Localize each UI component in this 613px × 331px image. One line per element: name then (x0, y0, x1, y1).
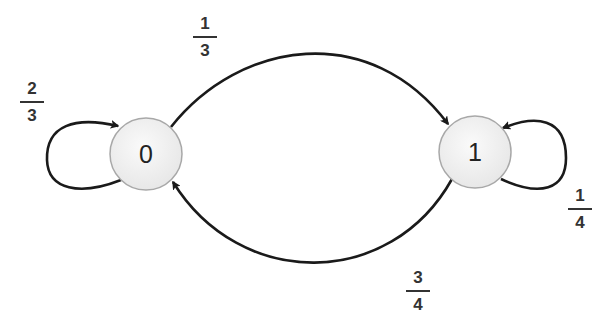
prob-denominator: 3 (190, 38, 220, 61)
prob-label-0-to-1: 1 3 (190, 14, 220, 61)
prob-label-1-to-1: 1 4 (565, 186, 595, 233)
prob-numerator: 1 (193, 14, 217, 38)
prob-denominator: 4 (565, 210, 595, 233)
prob-label-1-to-0: 3 4 (403, 268, 433, 315)
state-label-1: 1 (439, 137, 511, 167)
prob-numerator: 3 (406, 268, 430, 292)
edge-0-to-1 (171, 54, 448, 127)
edge-1-to-0 (173, 179, 452, 263)
state-label-0: 0 (110, 139, 182, 169)
diagram-canvas (0, 0, 613, 331)
prob-denominator: 3 (17, 103, 47, 126)
prob-label-0-to-0: 2 3 (17, 79, 47, 126)
prob-denominator: 4 (403, 292, 433, 315)
prob-numerator: 2 (20, 79, 44, 103)
prob-numerator: 1 (568, 186, 592, 210)
